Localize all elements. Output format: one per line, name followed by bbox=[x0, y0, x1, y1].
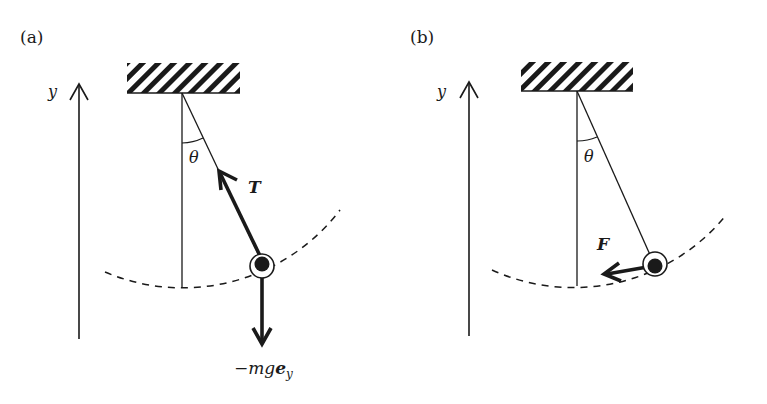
net-force-label: F bbox=[596, 234, 611, 254]
angle-arc bbox=[182, 138, 203, 143]
gravity-label: −mgey bbox=[234, 358, 293, 381]
pendulum-diagram: (a) y θ T −mgey bbox=[0, 0, 767, 404]
y-axis-arrow bbox=[460, 82, 478, 336]
gravity-label-prefix: −mg bbox=[234, 358, 275, 378]
panel-a-label: (a) bbox=[20, 27, 43, 47]
gravity-label-vector: e bbox=[275, 358, 286, 378]
pendulum-string bbox=[577, 91, 651, 257]
ceiling-support bbox=[521, 62, 633, 91]
ceiling-support bbox=[127, 63, 240, 93]
angle-label: θ bbox=[584, 147, 594, 166]
panel-a: (a) y θ T −mgey bbox=[20, 27, 342, 381]
angle-label: θ bbox=[189, 148, 199, 167]
tension-label: T bbox=[248, 177, 262, 197]
gravity-label-subscript: y bbox=[285, 367, 293, 381]
y-axis-label: y bbox=[436, 82, 447, 101]
pendulum-bob bbox=[643, 252, 667, 276]
y-axis-arrow bbox=[70, 84, 88, 339]
panel-b-label: (b) bbox=[410, 27, 434, 47]
gravity-arrow bbox=[253, 270, 271, 344]
pendulum-bob bbox=[250, 254, 274, 278]
y-axis-label: y bbox=[47, 82, 58, 101]
angle-arc bbox=[577, 137, 597, 141]
panel-b: (b) y θ F bbox=[410, 27, 727, 336]
trajectory-arc bbox=[105, 210, 340, 288]
